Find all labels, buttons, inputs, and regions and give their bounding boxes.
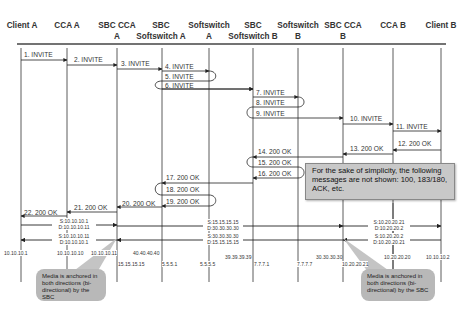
lifeline-header-softswitch-a: Softswitch A — [188, 20, 229, 42]
ip-address: 7.7.7.7 — [297, 261, 312, 267]
ip-address: 10.10.10.1 — [4, 250, 28, 256]
message-label: 15. 200 OK — [258, 159, 291, 166]
message-label: 6. INVITE — [165, 82, 194, 89]
message-label: 8. INVITE — [256, 99, 285, 106]
message-label: 14. 200 OK — [258, 148, 291, 155]
message-label: 17. 200 OK — [166, 174, 199, 181]
message-label: 20. 200 OK — [122, 200, 155, 207]
lifeline-header-client-a: Client A — [7, 20, 38, 31]
lifeline-header-cca-b: CCA B — [380, 20, 406, 31]
ip-address: 39.39.39.39 — [225, 254, 251, 260]
ip-address: 10.10.10.11 — [91, 250, 117, 256]
ip-address: 7.7.7.1 — [254, 261, 269, 267]
ip-address: 15.15.15.15 — [118, 261, 144, 267]
message-label: 18. 200 OK — [166, 186, 199, 193]
message-label: 1. INVITE — [24, 51, 53, 58]
message-label: 21. 200 OK — [74, 204, 107, 211]
lifeline-header-client-b: Client B — [426, 20, 457, 31]
message-label: 7. INVITE — [256, 89, 285, 96]
sip-call-flow-diagram — [0, 0, 464, 310]
lifeline-header-softswitch-b: Softswitch B — [277, 20, 318, 42]
media-label-seg1-rev: S:10.10.10.11D:10.10.10.1 — [52, 233, 96, 245]
media-anchor-note-a: Media is anchored in both directions (bi… — [36, 269, 106, 301]
message-label: 19. 200 OK — [166, 198, 199, 205]
ip-address: 40.40.40.40 — [133, 250, 159, 256]
message-label: 13. 200 OK — [350, 145, 383, 152]
ip-address: 10.10.10.2 — [426, 254, 450, 260]
message-label: 11. INVITE — [396, 123, 428, 130]
message-label: 12. 200 OK — [398, 140, 431, 147]
lifeline-header-cca-a: CCA A — [54, 20, 79, 31]
lifeline-header-sbc-cca-a: SBC CCA A — [98, 20, 135, 42]
simplicity-note: For the sake of simplicity, the followin… — [305, 163, 455, 200]
ip-address: 10.20.20.21 — [342, 261, 368, 267]
message-label: 16. 200 OK — [258, 170, 291, 177]
message-label: 10. INVITE — [350, 115, 382, 122]
media-label-seg2-rev: S:30.30.30.30D:15.15.15.15 — [203, 233, 243, 245]
message-label: 4. INVITE — [165, 63, 194, 70]
ip-address: 5.5.5.5 — [200, 261, 215, 267]
media-label-seg1-fwd: S:10.10.10.1D:10.10.10.11 — [52, 218, 96, 230]
media-anchor-note-b: Media is anchored in both directions (bi… — [361, 269, 435, 301]
media-label-seg2-fwd: S:15.15.15.15D:30.30.30.30 — [203, 219, 243, 231]
ip-address: 10.20.20.20 — [384, 254, 410, 260]
lifeline-header-sbc-softswitch-b: SBC Softswitch B — [228, 20, 278, 42]
ip-address: 10.10.10.10 — [57, 250, 83, 256]
ip-address: 30.30.30.30 — [316, 254, 342, 260]
media-label-seg3-rev: S:10.20.20.2D:10.20.20.21 — [368, 233, 410, 245]
ip-address: 5.5.5.1 — [162, 261, 177, 267]
media-label-seg3-fwd: S:10.20.20.21D:10.20.20.2 — [368, 219, 410, 231]
message-label: 22. 200 OK — [24, 209, 57, 216]
lifeline-header-sbc-cca-b: SBC CCA B — [324, 20, 361, 42]
message-label: 5. INVITE — [165, 73, 194, 80]
message-label: 3. INVITE — [121, 60, 150, 67]
message-label: 2. INVITE — [74, 56, 103, 63]
lifeline-header-sbc-softswitch-a: SBC Softswitch A — [136, 20, 185, 42]
message-label: 9. INVITE — [256, 110, 285, 117]
